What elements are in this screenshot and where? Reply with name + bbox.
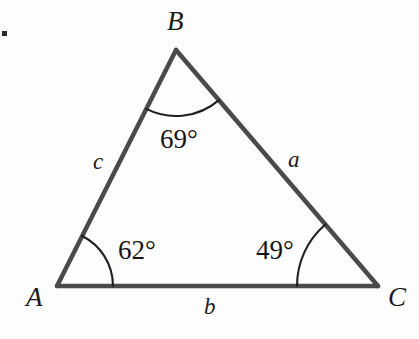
vertex-label-b: B xyxy=(167,8,184,35)
angle-arc-c xyxy=(297,224,325,286)
angle-label-a: 62° xyxy=(118,237,156,264)
side-label-c: c xyxy=(93,150,103,173)
angle-arc-a xyxy=(82,236,113,286)
angle-arc-b xyxy=(146,100,219,116)
side-c-line xyxy=(57,50,176,286)
triangle-sides xyxy=(57,50,378,286)
vertex-label-a: A xyxy=(26,284,43,311)
vertex-label-c: C xyxy=(388,284,406,311)
angle-label-b: 69° xyxy=(160,126,198,153)
triangle-figure: B A C c a b 69° 62° 49° xyxy=(0,0,419,339)
side-label-b: b xyxy=(204,295,216,318)
side-label-a: a xyxy=(288,148,300,171)
triangle-drawing xyxy=(0,0,419,339)
angle-label-c: 49° xyxy=(256,237,294,264)
